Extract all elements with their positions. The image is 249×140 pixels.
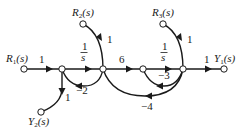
node-2 xyxy=(59,66,65,72)
forward-path xyxy=(24,66,224,73)
gain-r3: 1 xyxy=(187,33,193,45)
node-4 xyxy=(140,66,146,72)
label-y2: Y2(s) xyxy=(28,115,50,129)
signal-flow-graph: R1(s) R2(s) R3(s) Y1(s) Y2(s) 1 1 s 6 1 … xyxy=(0,0,249,140)
branch-y2 xyxy=(41,69,66,112)
svg-text:s: s xyxy=(161,51,165,63)
svg-text:s: s xyxy=(81,51,85,63)
node-r3 xyxy=(160,21,166,27)
arrow-minus4 xyxy=(145,93,152,100)
arrow-r3 xyxy=(176,33,182,41)
nodes xyxy=(21,21,227,115)
label-r1: R1(s) xyxy=(5,52,28,66)
arrow-n2-n3 xyxy=(85,66,92,73)
gain-y2: 1 xyxy=(65,91,71,103)
label-r2: R2(s) xyxy=(71,6,94,20)
arrow-r1-n2 xyxy=(46,66,53,73)
arrow-minus3 xyxy=(156,83,163,90)
gain-r1-n2: 1 xyxy=(39,53,45,65)
feedback-minus4-curve xyxy=(103,69,183,96)
label-y1: Y1(s) xyxy=(214,52,236,66)
arrow-n3-n4 xyxy=(126,66,133,73)
node-r1 xyxy=(21,66,27,72)
label-r3: R3(s) xyxy=(151,6,174,20)
gain-n2-n3: 1 s xyxy=(81,40,88,63)
gain-minus4: −4 xyxy=(141,100,153,112)
gain-minus2: −2 xyxy=(76,84,88,96)
y2-branch-curve xyxy=(41,69,62,112)
node-y1 xyxy=(221,66,227,72)
gain-minus3: −3 xyxy=(158,69,170,81)
node-r2 xyxy=(80,21,86,27)
gain-n4-n5: 1 s xyxy=(161,40,168,63)
arrow-r2 xyxy=(96,33,102,41)
gain-r2: 1 xyxy=(107,33,113,45)
arrow-n5-y1 xyxy=(205,66,212,73)
gain-n3-n4: 6 xyxy=(119,53,125,65)
node-3 xyxy=(100,66,106,72)
gain-n5-y1: 1 xyxy=(204,53,210,65)
node-5 xyxy=(180,66,186,72)
